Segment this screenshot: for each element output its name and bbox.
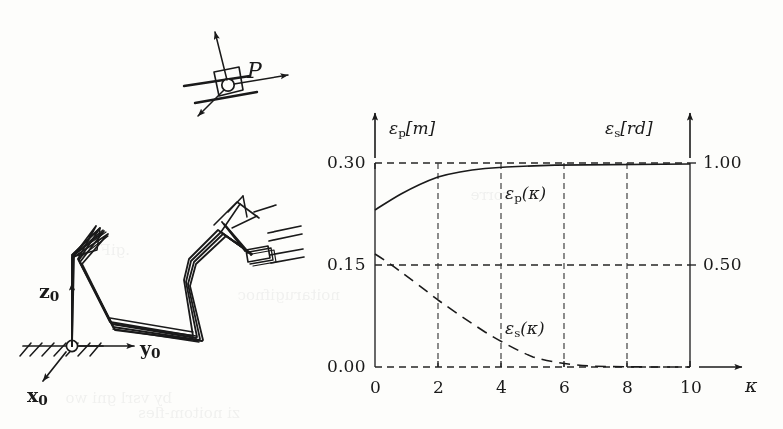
eps-s-annot-arg: (κ) — [520, 318, 544, 338]
manipulator-diagram — [20, 32, 304, 381]
x-axis-label-kappa: κ — [745, 374, 757, 396]
svg-text:noitarugifnoc: noitarugifnoc — [238, 286, 340, 304]
xtick-0: 0 — [370, 377, 381, 397]
base-frame-label-x0: x0 — [27, 384, 48, 408]
ground-hatching — [20, 343, 103, 356]
xtick-4: 4 — [496, 377, 507, 397]
xtick-10: 10 — [680, 377, 702, 397]
ytick-left-0.30: 0.30 — [327, 152, 366, 172]
eps-s-annot-symbol: ε — [505, 318, 514, 338]
left-axis-title: εp[m] — [389, 118, 435, 140]
x0-symbol: x — [27, 384, 38, 406]
right-axis-title: εs[rd] — [605, 118, 653, 140]
ytick-right-1.00: 1.00 — [703, 152, 742, 172]
manipulator-links — [72, 196, 304, 346]
xtick-2: 2 — [433, 377, 444, 397]
ytick-right-0.50: 0.50 — [703, 254, 742, 274]
eps-p-annotation: εp(κ) — [505, 183, 546, 205]
x0-subscript: 0 — [38, 392, 48, 408]
left-axis-unit: [m] — [406, 118, 435, 138]
y0-subscript: 0 — [151, 345, 161, 361]
z0-symbol: z — [39, 280, 50, 302]
right-axis-eps-symbol: ε — [605, 118, 614, 138]
plot-area — [375, 113, 742, 367]
y0-symbol: y — [140, 337, 151, 359]
eps-p-annot-symbol: ε — [505, 183, 514, 203]
eps-p-annot-arg: (κ) — [522, 183, 546, 203]
ytick-left-0.00: 0.00 — [327, 356, 366, 376]
base-frame-label-z0: z0 — [39, 280, 59, 304]
axis-arrows — [375, 113, 742, 367]
left-axis-eps-subscript: p — [398, 126, 406, 140]
end-effector-label-P: P — [247, 58, 262, 83]
figure-canvas: by vsrl gni wo zi noitom-fles .giF noita… — [0, 0, 783, 429]
xtick-6: 6 — [559, 377, 570, 397]
svg-text:.giF: .giF — [100, 241, 130, 259]
z0-subscript: 0 — [50, 288, 60, 304]
end-effector-frame-P — [184, 32, 288, 116]
figure-svg: by vsrl gni wo zi noitom-fles .giF noita… — [0, 0, 783, 429]
base-frame-label-y0: y0 — [140, 337, 161, 361]
left-axis-eps-symbol: ε — [389, 118, 398, 138]
svg-text:zi noitom-fles: zi noitom-fles — [138, 404, 240, 422]
right-axis-unit: [rd] — [620, 118, 652, 138]
series-eps-s-curve — [375, 254, 690, 367]
xtick-8: 8 — [622, 377, 633, 397]
eps-p-annot-subscript: p — [514, 191, 522, 205]
ytick-left-0.15: 0.15 — [327, 254, 366, 274]
eps-s-annotation: εs(κ) — [505, 318, 545, 340]
